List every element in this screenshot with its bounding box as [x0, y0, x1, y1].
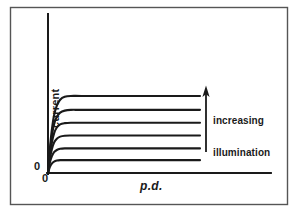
x-axis-label: p.d. — [140, 180, 163, 193]
annotation-line-2: illumination — [213, 148, 270, 159]
origin-label-x-axis: 0 — [42, 173, 48, 185]
y-axis-label-text: current — [50, 68, 62, 128]
figure-container: current p.d. 0 0 increasing illumination — [0, 0, 296, 213]
origin-label-y-axis: 0 — [34, 161, 40, 173]
y-axis-label: current — [26, 10, 85, 70]
annotation-line-1: increasing — [213, 116, 270, 127]
increasing-illumination-label: increasing illumination — [213, 94, 270, 180]
